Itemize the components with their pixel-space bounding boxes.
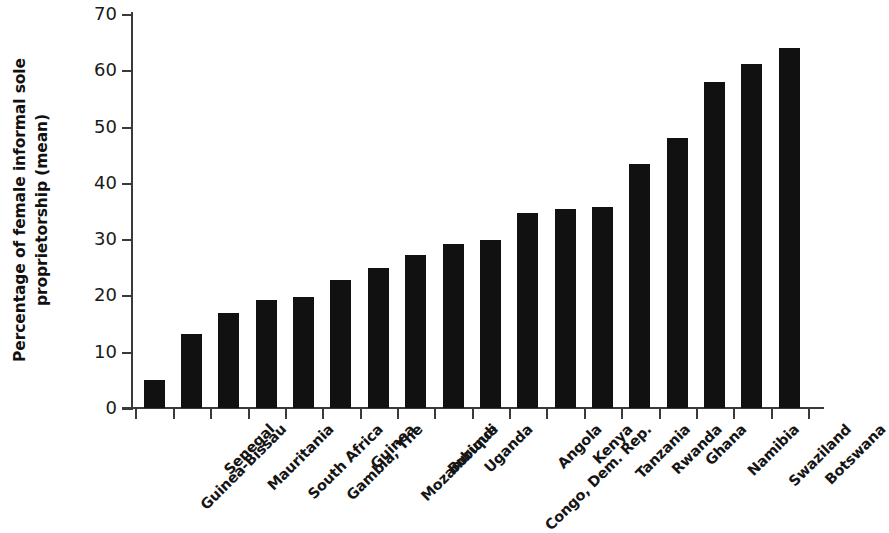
x-tick-mark	[248, 409, 250, 419]
x-tick-label: Burundi	[444, 421, 500, 477]
x-tick-label: Congo, Dem. Rep.	[542, 421, 654, 533]
bar	[741, 64, 762, 408]
x-tick-label: Mauritania	[264, 421, 336, 493]
y-tick-label: 60	[94, 59, 117, 80]
x-tick-label: Guinea-Bissau	[198, 421, 290, 513]
y-tick-label: 40	[94, 172, 117, 193]
bar	[555, 209, 576, 408]
x-tick-label: Senegal	[220, 421, 277, 478]
x-tick-mark	[584, 409, 586, 419]
bar	[330, 280, 351, 408]
bar	[368, 268, 389, 408]
bar	[667, 138, 688, 408]
bar	[517, 213, 538, 408]
x-tick-mark	[696, 409, 698, 419]
bar	[181, 334, 202, 408]
plot-area: 010203040506070	[131, 14, 824, 408]
x-tick-label: Rwanda	[668, 421, 724, 477]
bar	[144, 380, 165, 408]
y-tick-label: 10	[94, 341, 117, 362]
y-axis-title-line-1: Percentage of female informal sole	[9, 58, 31, 362]
x-tick-mark	[659, 409, 661, 419]
bar-series	[131, 14, 824, 408]
x-tick-mark	[472, 409, 474, 419]
bar	[704, 82, 725, 408]
x-tick-label: Gambia, The	[343, 421, 425, 503]
bar	[405, 255, 426, 408]
y-tick-mark	[122, 183, 131, 185]
y-tick-mark	[122, 352, 131, 354]
x-tick-mark	[360, 409, 362, 419]
bar	[218, 313, 239, 408]
bar	[592, 207, 613, 408]
x-tick-mark	[808, 409, 810, 419]
y-tick-mark	[122, 14, 131, 16]
y-tick-mark	[122, 127, 131, 129]
y-axis-title-text: Percentage of female informal sole propr…	[9, 58, 54, 362]
y-tick-mark	[122, 408, 131, 410]
bar	[443, 244, 464, 408]
x-tick-mark	[322, 409, 324, 419]
bar	[293, 297, 314, 408]
x-tick-label: South Africa	[305, 421, 386, 502]
x-tick-mark	[733, 409, 735, 419]
x-tick-mark	[621, 409, 623, 419]
y-tick-mark	[122, 239, 131, 241]
x-tick-mark	[434, 409, 436, 419]
bar	[629, 164, 650, 408]
x-tick-label: Ghana	[702, 421, 749, 468]
x-tick-label: Namibia	[744, 421, 802, 479]
y-axis-title-line-2: proprietorship (mean)	[31, 58, 53, 362]
x-tick-label: Tanzania	[633, 421, 694, 482]
x-tick-label: Swaziland	[786, 421, 854, 489]
y-tick-label: 20	[94, 284, 117, 305]
x-tick-mark	[509, 409, 511, 419]
bar	[256, 300, 277, 408]
y-axis-title: Percentage of female informal sole propr…	[0, 0, 62, 420]
x-tick-label: Kenya	[590, 421, 636, 467]
x-tick-label: Uganda	[481, 421, 536, 476]
x-tick-mark	[546, 409, 548, 419]
x-tick-mark	[210, 409, 212, 419]
x-tick-mark	[285, 409, 287, 419]
x-tick-label: Angola	[554, 421, 605, 472]
x-tick-mark	[135, 409, 137, 419]
x-tick-label: Botswana	[822, 421, 889, 488]
y-tick-mark	[122, 70, 131, 72]
y-tick-label: 70	[94, 3, 117, 24]
x-tick-label: Mozambique	[418, 421, 501, 504]
y-tick-label: 50	[94, 116, 117, 137]
y-tick-label: 0	[106, 397, 117, 418]
x-tick-label: Guinea	[367, 421, 418, 472]
bar	[480, 240, 501, 408]
bar	[779, 48, 800, 408]
x-tick-mark	[771, 409, 773, 419]
y-tick-label: 30	[94, 228, 117, 249]
y-tick-mark	[122, 295, 131, 297]
x-tick-mark	[173, 409, 175, 419]
x-tick-mark	[397, 409, 399, 419]
